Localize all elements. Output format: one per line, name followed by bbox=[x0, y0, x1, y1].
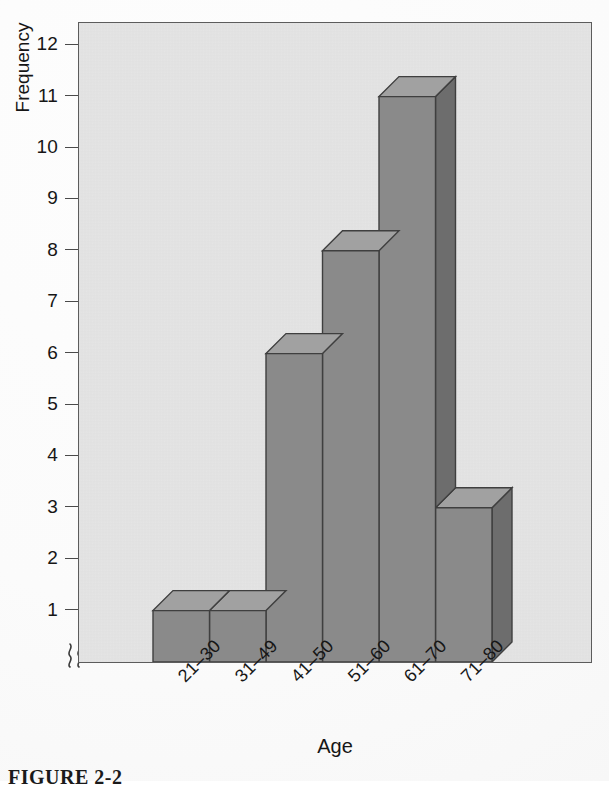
bars-group bbox=[79, 23, 592, 663]
bar-front-face bbox=[379, 97, 436, 662]
y-axis-tick: 9 bbox=[47, 189, 78, 207]
y-axis-tick-mark bbox=[65, 95, 78, 96]
y-axis-tick-mark bbox=[65, 506, 78, 507]
y-axis-tick-mark bbox=[65, 147, 78, 148]
y-axis-tick-label: 3 bbox=[47, 498, 65, 516]
y-axis-tick-label: 10 bbox=[36, 138, 65, 156]
bar-side-face bbox=[436, 77, 456, 508]
figure-caption: FIGURE 2-2 bbox=[8, 766, 122, 788]
y-axis-tick: 11 bbox=[38, 87, 78, 105]
x-axis: 21–3031–4941–5051–6061–7071–80 bbox=[78, 666, 592, 742]
y-axis-tick-mark bbox=[65, 301, 78, 302]
y-axis-tick-label: 4 bbox=[47, 446, 65, 464]
y-axis-tick: 3 bbox=[47, 498, 78, 516]
y-axis-tick-mark bbox=[65, 198, 78, 199]
y-axis-tick-label: 2 bbox=[47, 549, 65, 567]
y-axis-tick-mark bbox=[65, 558, 78, 559]
y-axis-tick-label: 6 bbox=[47, 344, 65, 362]
y-axis-tick-label: 5 bbox=[47, 395, 65, 413]
y-axis-tick-label: 11 bbox=[38, 87, 65, 105]
y-axis-tick-mark bbox=[65, 455, 78, 456]
y-axis-tick-mark bbox=[65, 249, 78, 250]
y-axis-tick: 4 bbox=[47, 446, 78, 464]
y-axis-tick: 10 bbox=[36, 138, 78, 156]
y-axis-tick: 2 bbox=[47, 549, 78, 567]
y-axis-tick-mark bbox=[65, 352, 78, 353]
y-axis-tick-mark bbox=[65, 44, 78, 45]
y-axis-tick: 6 bbox=[47, 344, 78, 362]
plot-area bbox=[78, 22, 592, 663]
y-axis-tick-label: 9 bbox=[47, 189, 65, 207]
y-axis-tick: 5 bbox=[47, 395, 78, 413]
y-axis-tick-mark bbox=[65, 609, 78, 610]
y-axis-tick: 8 bbox=[47, 241, 78, 259]
x-axis-title: Age bbox=[78, 735, 592, 758]
y-axis-tick-label: 12 bbox=[36, 35, 65, 53]
y-axis-tick-label: 7 bbox=[47, 292, 65, 310]
y-axis-tick: 1 bbox=[47, 601, 78, 619]
y-axis-tick-mark bbox=[65, 404, 78, 405]
y-axis-tick: 7 bbox=[47, 292, 78, 310]
y-axis-tick-label: 1 bbox=[47, 601, 65, 619]
y-axis-tick: 12 bbox=[36, 35, 78, 53]
y-axis-tick-label: 8 bbox=[47, 241, 65, 259]
y-axis-title: Frequency bbox=[8, 0, 38, 388]
